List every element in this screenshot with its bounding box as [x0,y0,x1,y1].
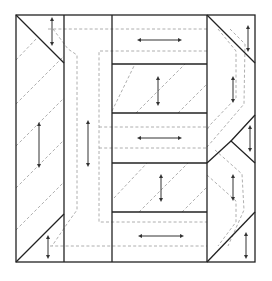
grain-arrows [39,19,250,257]
quilt-block-diagram [0,0,272,281]
seam-lines [16,29,245,246]
cut-lines [16,15,255,262]
